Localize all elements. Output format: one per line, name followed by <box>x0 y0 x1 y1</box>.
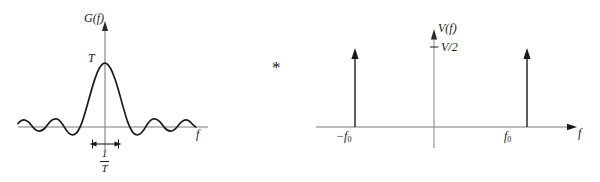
right-plot-y-axis-arrowhead <box>431 29 437 40</box>
convolution-operator-symbol: * <box>272 58 281 78</box>
null-spacing-fraction: 1 T <box>100 148 109 174</box>
right-plot-amplitude-label: V/2 <box>441 41 458 53</box>
impulse-positive-f0-label-subscript: 0 <box>507 135 511 144</box>
sinc-curve <box>18 63 196 135</box>
impulse-positive-f0-arrowhead <box>523 48 530 59</box>
right-plot-y-axis-label: V(f) <box>438 22 457 34</box>
right-plot-x-axis-label: f <box>578 127 581 139</box>
figure-canvas: G(f) T f 1 T * V(f) V/2 −f0 f0 f <box>0 0 600 182</box>
right-plot-x-axis-arrowhead <box>567 124 577 131</box>
figure-vector-layer <box>0 0 600 182</box>
null-spacing-numerator: 1 <box>100 148 109 160</box>
impulse-negative-f0-arrowhead <box>351 48 358 59</box>
impulse-negative-f0-label-text: −f <box>336 129 347 143</box>
left-plot-peak-label: T <box>88 52 95 64</box>
left-plot-x-axis-label: f <box>196 128 199 140</box>
impulse-positive-f0-label: f0 <box>504 130 511 144</box>
impulse-negative-f0-label: −f0 <box>336 130 352 144</box>
null-spacing-denominator: T <box>100 163 109 175</box>
impulse-negative-f0-label-subscript: 0 <box>347 135 351 144</box>
left-plot-y-axis-label: G(f) <box>84 12 104 24</box>
